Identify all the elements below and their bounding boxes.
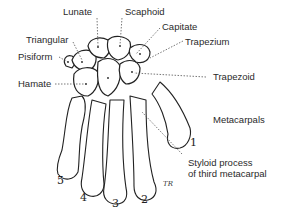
label-styloid-line2: of third metacarpal — [188, 168, 267, 179]
label-capitate: Capitate — [162, 21, 197, 32]
scaphoid — [107, 36, 130, 60]
metacarpal-number-5: 5 — [57, 174, 64, 187]
metacarpal-number-3: 3 — [112, 197, 119, 210]
label-scaphoid: Scaphoid — [125, 6, 165, 17]
metacarpal-number-2: 2 — [141, 193, 148, 206]
metacarpal-5 — [57, 96, 85, 179]
hamate — [74, 68, 99, 96]
label-styloid-line1: Styloid process — [188, 157, 267, 168]
label-trapezoid: Trapezoid — [213, 71, 255, 82]
label-hamate: Hamate — [18, 78, 51, 89]
metacarpal-number-4: 4 — [80, 191, 87, 204]
metacarpal-number-1: 1 — [190, 136, 197, 149]
hand-bones-illustration — [0, 0, 290, 214]
label-trapezium: Trapezium — [185, 36, 230, 47]
label-lunate: Lunate — [63, 6, 92, 17]
label-pisiform: Pisiform — [18, 51, 52, 62]
label-triangular: Triangular — [26, 34, 68, 45]
capitate — [97, 59, 120, 96]
label-styloid-process: Styloid process of third metacarpal — [188, 157, 267, 179]
metacarpal-2 — [130, 96, 156, 200]
artist-signature: TR — [163, 180, 173, 188]
trapezoid — [119, 61, 140, 84]
metacarpal-1 — [152, 82, 191, 148]
metacarpal-3 — [104, 100, 127, 204]
label-metacarpals: Metacarpals — [213, 114, 265, 125]
